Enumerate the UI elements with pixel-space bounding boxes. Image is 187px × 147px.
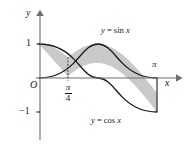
curve-label-cos-fn: cos [104, 115, 115, 125]
curve-label-cos-arg: x [115, 115, 121, 125]
curve-label-sin: y = sin x [101, 26, 130, 35]
curve-label-cos-eq: = [95, 115, 104, 125]
fraction-numerator: π [61, 83, 75, 92]
y-tick-label-minus-one: −1 [19, 106, 30, 116]
x-tick-label-quarter-pi: π 4 [61, 83, 75, 104]
curve-label-sin-arg: x [124, 25, 130, 35]
curve-label-sin-fn: sin [114, 25, 124, 35]
math-figure-sin-cos-area: y x O 1 −1 π π 4 y = sin x y = cos x [0, 0, 187, 147]
x-axis-label: x [165, 78, 169, 88]
y-axis-label: y [26, 8, 30, 18]
curve-label-sin-eq: = [105, 25, 114, 35]
y-tick-label-one: 1 [26, 38, 31, 48]
curve-label-cos: y = cos x [91, 116, 121, 125]
x-tick-label-pi: π [152, 60, 157, 69]
origin-label: O [30, 80, 37, 90]
fraction-denominator: 4 [61, 94, 75, 103]
